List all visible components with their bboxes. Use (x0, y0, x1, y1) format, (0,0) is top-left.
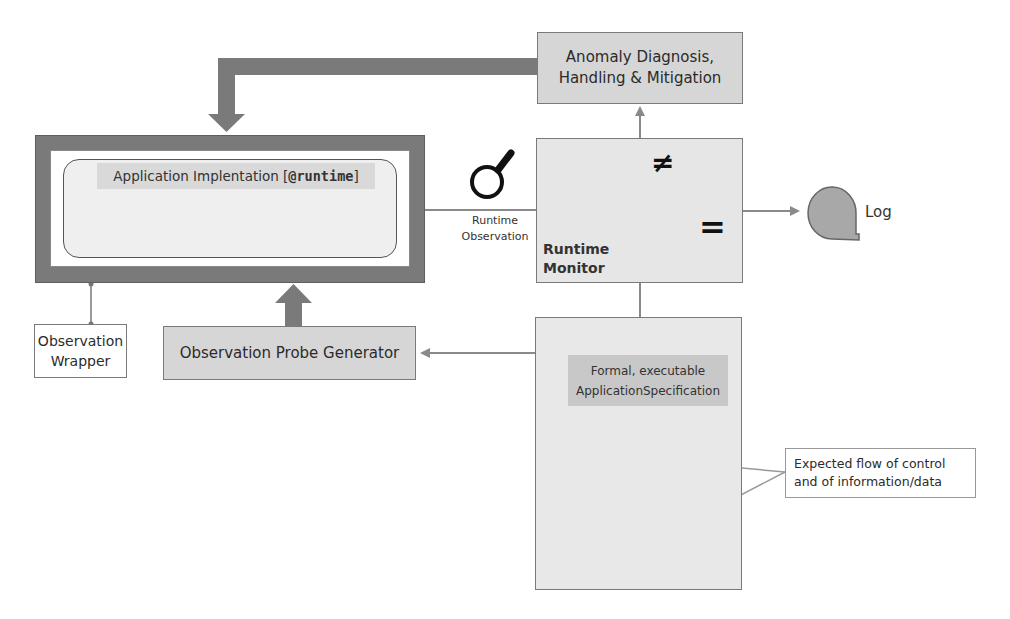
runtime-monitor-label: Runtime Monitor (543, 240, 609, 278)
runtime-obs-line1: Runtime (450, 213, 540, 229)
runtime-obs-line2: Observation (450, 229, 540, 245)
application-title: Application Implentation [@runtime] (97, 163, 375, 189)
probe-injection-arrow (275, 284, 312, 326)
runtime-observation-label: Runtime Observation (450, 213, 540, 245)
not-equal-symbol: ≠ (651, 146, 674, 179)
observation-probe-generator-box: Observation Probe Generator (163, 326, 416, 380)
magnifier-icon (472, 153, 511, 197)
log-label: Log (865, 203, 892, 221)
spec-line1: Formal, executable (576, 361, 720, 381)
expected-flow-callout: Expected flow of control and of informat… (785, 448, 976, 498)
anomaly-diagnosis-box: Anomaly Diagnosis, Handling & Mitigation (537, 32, 743, 104)
anomaly-line2: Handling & Mitigation (559, 68, 722, 89)
expected-line1: Expected flow of control (794, 455, 945, 473)
wrapper-line2: Wrapper (38, 351, 123, 371)
monitor-line1: Runtime (543, 240, 609, 259)
app-title-suffix: ] (353, 168, 358, 184)
expected-line2: and of information/data (794, 473, 945, 491)
connectors-layer (0, 0, 1010, 619)
anomaly-line1: Anomaly Diagnosis, (559, 47, 722, 68)
spec-line2: ApplicationSpecification (576, 381, 720, 401)
app-title-prefix: Application Implentation [ (113, 168, 288, 184)
monitor-line2: Monitor (543, 259, 609, 278)
app-title-code: @runtime (288, 168, 353, 184)
log-storage-icon (808, 187, 859, 240)
observation-wrapper-box: Observation Wrapper (34, 324, 127, 378)
wrapper-line1: Observation (38, 331, 123, 351)
probe-generator-label: Observation Probe Generator (180, 344, 400, 362)
equal-symbol: = (699, 208, 726, 246)
specification-title: Formal, executable ApplicationSpecificat… (568, 355, 728, 406)
feedback-arrow (208, 58, 538, 132)
